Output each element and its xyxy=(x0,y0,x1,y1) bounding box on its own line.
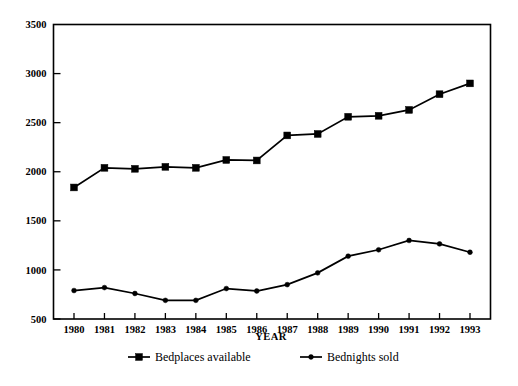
data-point xyxy=(254,289,259,294)
x-tick-label: 1990 xyxy=(368,324,389,335)
data-point xyxy=(436,91,443,98)
chart-container: 350030002500200015001000500 198019811982… xyxy=(0,0,518,386)
y-tick-label: 500 xyxy=(31,314,47,325)
data-point xyxy=(467,80,474,87)
data-point xyxy=(284,132,291,139)
data-point xyxy=(407,238,412,243)
data-point xyxy=(163,298,168,303)
data-point xyxy=(346,254,351,259)
data-point xyxy=(468,250,473,255)
y-axis-ticks xyxy=(54,74,61,319)
y-tick-label: 3500 xyxy=(26,19,47,30)
y-tick-label: 2500 xyxy=(26,117,47,128)
data-point xyxy=(162,163,169,170)
data-point xyxy=(192,164,199,171)
data-point xyxy=(253,157,260,164)
line-chart: 350030002500200015001000500 198019811982… xyxy=(0,0,518,386)
data-point xyxy=(101,164,108,171)
data-point xyxy=(314,131,321,138)
data-point xyxy=(376,247,381,252)
legend-item-1: Bedplaces available xyxy=(128,350,251,364)
x-tick-label: 1993 xyxy=(460,324,481,335)
y-tick-label: 2000 xyxy=(26,166,47,177)
data-point xyxy=(315,270,320,275)
x-axis-ticks xyxy=(74,313,470,319)
legend-label: Bednights sold xyxy=(327,350,399,364)
data-point xyxy=(375,112,382,119)
data-point xyxy=(132,165,139,172)
legend-marker-dot-icon xyxy=(309,355,314,360)
x-tick-label: 1985 xyxy=(216,324,237,335)
chart-legend: Bedplaces availableBednights sold xyxy=(128,350,399,364)
y-tick-label: 1500 xyxy=(26,215,47,226)
x-tick-label: 1991 xyxy=(399,324,420,335)
x-tick-label: 1992 xyxy=(429,324,450,335)
x-axis-title: YEAR xyxy=(255,331,286,342)
data-point xyxy=(193,298,198,303)
x-tick-label: 1981 xyxy=(94,324,115,335)
plot-frame xyxy=(54,25,491,320)
series-group xyxy=(71,80,474,303)
data-point xyxy=(102,285,107,290)
data-point xyxy=(437,242,442,247)
x-tick-label: 1984 xyxy=(185,324,207,335)
data-point xyxy=(345,113,352,120)
x-tick-label: 1982 xyxy=(124,324,145,335)
data-point xyxy=(71,184,78,191)
data-point xyxy=(133,291,138,296)
x-tick-label: 1989 xyxy=(338,324,359,335)
x-tick-label: 1980 xyxy=(64,324,85,335)
data-point xyxy=(224,286,229,291)
data-point xyxy=(406,107,413,114)
series-2 xyxy=(72,238,473,303)
data-point xyxy=(72,288,77,293)
x-tick-label: 1983 xyxy=(155,324,176,335)
data-point xyxy=(285,282,290,287)
x-tick-label: 1988 xyxy=(307,324,328,335)
legend-label: Bedplaces available xyxy=(155,350,251,364)
y-tick-label: 3000 xyxy=(26,68,47,79)
series-1 xyxy=(71,80,474,191)
y-tick-label: 1000 xyxy=(26,265,47,276)
legend-marker-square-icon xyxy=(136,354,143,361)
data-point xyxy=(223,157,230,164)
legend-item-2: Bednights sold xyxy=(300,350,399,364)
y-axis-tick-labels: 350030002500200015001000500 xyxy=(26,19,47,325)
